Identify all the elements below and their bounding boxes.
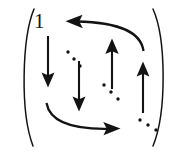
- ellipsis-upper-left: [66, 50, 81, 67]
- ellipsis-lower-right: [138, 118, 157, 131]
- arrow-up-right-outer: [137, 62, 150, 114]
- arrow-down-left-outer: [42, 36, 55, 88]
- matrix-arrow-figure: 1: [0, 0, 186, 152]
- arrow-down-left-inner: [73, 61, 86, 112]
- left-paren: [24, 9, 34, 146]
- curved-arrow-top-left: [66, 15, 144, 51]
- arrow-up-right-inner: [105, 39, 118, 90]
- curved-arrow-bottom-right: [47, 103, 121, 135]
- entry-label-one: 1: [34, 11, 45, 32]
- right-paren: [153, 9, 163, 146]
- figure-canvas: [0, 0, 186, 152]
